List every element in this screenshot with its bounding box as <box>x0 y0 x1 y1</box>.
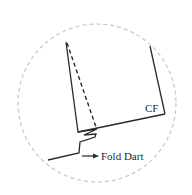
fold-dart-label: Fold Dart <box>101 150 143 162</box>
center-front-label: CF <box>145 102 158 114</box>
pattern-diagram: Fold Dart CF <box>0 0 192 195</box>
bottom-edge <box>78 114 165 132</box>
fold-arrow-head-icon <box>93 154 99 159</box>
